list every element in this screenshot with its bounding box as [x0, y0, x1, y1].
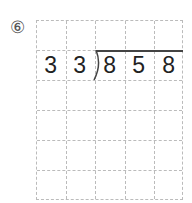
grid-line [37, 140, 182, 141]
grid-line [37, 170, 182, 171]
dividend-digit: 5 [124, 50, 153, 80]
grid-line [37, 80, 182, 81]
divisor-digit: 3 [36, 50, 65, 80]
dividend-digit: 8 [95, 50, 124, 80]
problem-number: ⑥ [10, 19, 25, 36]
answer-grid [36, 20, 183, 200]
divisor-digit: 3 [65, 50, 94, 80]
grid-line [37, 110, 182, 111]
dividend-digit: 8 [154, 50, 183, 80]
